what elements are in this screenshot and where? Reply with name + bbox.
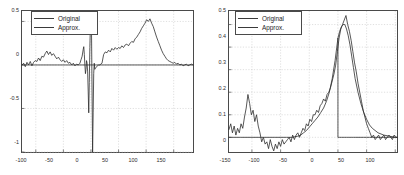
y-tick-label-right-4: 0.1 <box>202 111 226 117</box>
y-tick-label-right-1: 0.4 <box>202 33 226 39</box>
y-tick-label-left-3: -1 <box>0 139 19 145</box>
legend-entry-original-left: Original <box>34 14 94 23</box>
y-tick-label-right-2: 0.3 <box>202 59 226 65</box>
series-line-original <box>229 16 397 151</box>
y-tick-label-right-3: 0.2 <box>202 85 226 91</box>
y-tick-label-left-0: 0.5 <box>0 7 19 13</box>
legend-entry-approx-right: Approx. <box>238 23 298 32</box>
legend-line-approx-icon <box>34 27 54 28</box>
legend-left: Original Approx. <box>31 11 98 35</box>
legend-line-original-icon <box>34 18 54 19</box>
series-line-approx-segment2 <box>338 25 397 138</box>
legend-entry-approx-left: Approx. <box>34 23 94 32</box>
legend-line-original-icon <box>238 18 258 19</box>
x-tick-label-left-5: 150 <box>141 157 181 163</box>
legend-label-approx: Approx. <box>58 23 80 32</box>
y-tick-label-left-1: 0 <box>0 51 19 57</box>
y-tick-label-left-2: -0.5 <box>0 95 19 101</box>
legend-label-original: Original <box>58 14 80 23</box>
y-tick-label-right-5: 0 <box>202 137 226 143</box>
figure-container: 0.5 0 -0.5 -1 -100 -50 0 50 100 150 Orig… <box>0 0 404 175</box>
legend-entry-original-right: Original <box>238 14 298 23</box>
legend-right: Original Approx. <box>235 11 302 35</box>
series-line-original <box>22 19 193 152</box>
chart-panel-right: 0.5 0.4 0.3 0.2 0.1 0 -150 -100 -50 0 50… <box>202 0 404 175</box>
series-line-approx <box>229 38 397 137</box>
legend-label-approx: Approx. <box>262 23 284 32</box>
chart-panel-left: 0.5 0 -0.5 -1 -100 -50 0 50 100 150 Orig… <box>0 0 202 175</box>
y-tick-label-right-0: 0.5 <box>202 7 226 13</box>
legend-label-original: Original <box>262 14 284 23</box>
x-tick-label-right-5: 100 <box>350 157 390 163</box>
legend-line-approx-icon <box>238 27 258 28</box>
